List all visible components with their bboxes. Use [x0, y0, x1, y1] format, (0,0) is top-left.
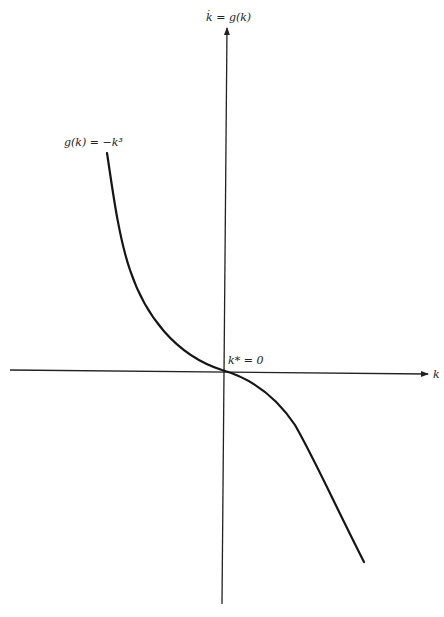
curve-label: g(k) = −k³: [64, 136, 123, 149]
equilibrium-label: k* = 0: [228, 354, 263, 367]
y-axis-label: k̇ = g(k): [206, 9, 251, 24]
y-axis: [222, 28, 227, 604]
phase-diagram: k̇ = g(k) k g(k) = −k³ k* = 0: [0, 0, 444, 617]
x-axis: [10, 370, 428, 374]
x-axis-label: k: [433, 368, 440, 381]
